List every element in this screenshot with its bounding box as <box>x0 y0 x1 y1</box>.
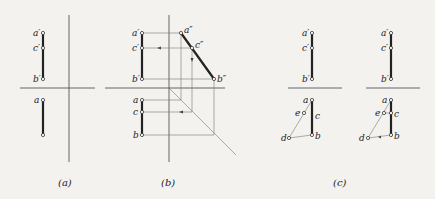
label-a: a <box>34 95 39 105</box>
label-c-prime: c′ <box>381 43 388 53</box>
label-e: e <box>295 108 300 118</box>
projection-figure: a′ c′ b′ a (a) <box>0 0 435 199</box>
label-a-double-prime: a″ <box>184 25 193 35</box>
label-c: c <box>394 109 399 119</box>
point-b-prime <box>389 77 392 80</box>
point-a-prime <box>140 31 143 34</box>
point-c-prime <box>41 46 44 49</box>
caption-a: (a) <box>58 177 72 188</box>
caption-c: (c) <box>333 177 347 188</box>
label-b-double-prime: b″ <box>217 74 227 84</box>
line-ad <box>368 100 391 138</box>
point-a <box>310 98 313 101</box>
label-a: a <box>382 95 387 105</box>
point-c-double-prime <box>190 46 193 49</box>
point-b-double-prime <box>212 77 215 80</box>
arrow-icon <box>378 136 381 139</box>
label-a: a <box>133 95 138 105</box>
label-b: b <box>394 131 400 141</box>
point-b <box>389 133 392 136</box>
point-b-prime <box>310 77 313 80</box>
panel-b: a′ c′ b′ a″ c″ b″ a c b (b) <box>105 15 236 188</box>
point-c <box>140 110 143 113</box>
line-db <box>289 135 312 138</box>
point-d <box>366 136 369 139</box>
panel-c-left: a′ c′ b′ a e c d b <box>281 28 342 143</box>
panel-a: a′ c′ b′ a (a) <box>20 15 95 188</box>
label-c-prime: c′ <box>302 43 309 53</box>
label-c-prime: c′ <box>132 43 139 53</box>
point-c-prime <box>140 46 143 49</box>
point-c-prime <box>389 46 392 49</box>
point-a <box>389 98 392 101</box>
point-e <box>382 111 385 114</box>
label-d: d <box>281 133 287 143</box>
line-ad <box>289 100 312 138</box>
point-b-prime <box>41 77 44 80</box>
label-e: e <box>375 108 380 118</box>
point-a-prime <box>41 31 44 34</box>
label-c: c <box>315 111 320 121</box>
point-c <box>389 111 392 114</box>
label-a: a <box>303 95 308 105</box>
label-b: b <box>315 131 321 141</box>
point-b <box>140 133 143 136</box>
label-a-prime: a′ <box>381 28 388 38</box>
label-b: b <box>133 130 139 140</box>
point-a <box>41 98 44 101</box>
point-a-prime <box>389 31 392 34</box>
label-b-prime: b′ <box>33 74 41 84</box>
label-d: d <box>359 133 365 143</box>
point-a-double-prime <box>179 31 182 34</box>
label-c-prime: c′ <box>33 43 40 53</box>
45-degree-line <box>169 88 236 155</box>
label-b-prime: b′ <box>132 74 140 84</box>
label-a-prime: a′ <box>33 28 40 38</box>
label-b-prime: b′ <box>381 74 389 84</box>
label-a-prime: a′ <box>132 28 139 38</box>
caption-b: (b) <box>161 177 175 188</box>
point-b-prime <box>140 77 143 80</box>
point-a <box>140 98 143 101</box>
point-e <box>302 111 305 114</box>
arrow-icon <box>191 58 194 62</box>
arrow-icon <box>157 47 161 50</box>
arrow-icon <box>179 111 183 114</box>
label-c-double-prime: c″ <box>195 40 204 50</box>
point-b <box>41 133 44 136</box>
point-c-prime <box>310 46 313 49</box>
point-a-prime <box>310 31 313 34</box>
label-a-prime: a′ <box>302 28 309 38</box>
point-d <box>287 136 290 139</box>
point-b <box>310 133 313 136</box>
panel-c-right: a′ c′ b′ a e c d b <box>359 28 420 143</box>
label-b-prime: b′ <box>302 74 310 84</box>
label-c: c <box>133 107 138 117</box>
